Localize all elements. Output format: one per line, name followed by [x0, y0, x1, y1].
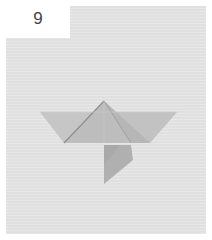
origami-model — [0, 0, 212, 240]
